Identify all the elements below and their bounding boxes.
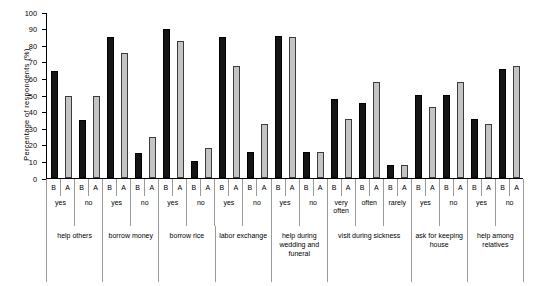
y-tick-label: 90 [29,25,37,34]
plot-area: 0102030405060708090100 [46,13,523,179]
bar-slot [75,13,89,178]
bar-slot [187,13,201,178]
answer-label: no [243,196,271,226]
series-label: B [243,179,257,196]
series-label: A [173,179,187,196]
series-label: B [468,179,482,196]
bar-slot [271,13,285,178]
bar-slot [159,13,173,178]
bar-slot [411,13,425,178]
bar-slot [299,13,313,178]
answer-label: no [300,196,328,226]
bar-B [471,119,478,178]
bar-A [261,124,268,178]
answer-label: no [75,196,103,226]
bar-slot [495,13,509,178]
series-label: B [215,179,229,196]
bar-slot [383,13,397,178]
bar-A [373,82,380,178]
bar-slot [355,13,369,178]
bar-A [65,96,72,179]
bar-A [205,148,212,178]
y-tick-label: 50 [29,91,37,100]
bar-slot [173,13,187,178]
answer-label: no [496,196,524,226]
bar-A [317,152,324,178]
answer-label: no [131,196,159,226]
group-label: help during wedding and funeral [272,226,328,282]
group-label: labor exchange [216,226,272,282]
group-label: ask for keeping house [412,226,468,282]
bar-slot [145,13,159,178]
bar-slot [481,13,495,178]
group-label: borrow money [103,226,159,282]
series-label: B [440,179,454,196]
bar-slot [453,13,467,178]
bar-B [219,37,226,178]
bar-A [457,82,464,178]
bar-A [121,53,128,178]
y-tick: 10 [42,162,46,163]
y-tick: 50 [42,96,46,97]
bar-slot [397,13,411,178]
answer-label-row: yesnoyesnoyesnoyesnoyesnovery oftenoften… [46,196,524,226]
y-tick: 30 [42,129,46,130]
bar-slot [243,13,257,178]
answer-label: yes [103,196,131,226]
bar-slot [117,13,131,178]
series-label: B [272,179,286,196]
y-tick: 100 [42,13,46,14]
series-label: A [314,179,328,196]
series-label: B [75,179,89,196]
series-label: A [201,179,215,196]
group-label: borrow rice [159,226,215,282]
series-label: B [384,179,398,196]
series-label: A [482,179,496,196]
answer-label: yes [412,196,440,226]
bar-slot [103,13,117,178]
y-tick: 60 [42,79,46,80]
bar-A [233,66,240,178]
bar-B [247,152,254,178]
y-tick: 80 [42,46,46,47]
series-label: B [496,179,510,196]
y-tick-label: 10 [29,157,37,166]
bar-B [51,71,58,178]
y-tick-label: 60 [29,74,37,83]
bar-slot [47,13,61,178]
bar-slot [257,13,271,178]
y-tick: 40 [42,112,46,113]
bar-A [93,96,100,179]
bar-slot [131,13,145,178]
group-label: visit during sickness [328,226,412,282]
series-label: B [103,179,117,196]
series-label: A [370,179,384,196]
answer-label: often [356,196,384,226]
bar-B [135,153,142,178]
category-label-table: BABABABABABABABABABABABABABABABABA yesno… [46,179,524,282]
series-label: B [300,179,314,196]
bar-A [289,37,296,178]
bar-B [387,165,394,178]
group-label: help others [46,226,103,282]
bar-slot [61,13,75,178]
bar-A [345,119,352,178]
series-label: A [342,179,356,196]
y-tick-label: 20 [29,141,37,150]
bar-slot [215,13,229,178]
bar-B [107,37,114,178]
bar-slot [509,13,523,178]
series-label: A [229,179,243,196]
bar-B [415,95,422,178]
series-label: A [454,179,468,196]
bar-B [191,161,198,178]
bar-A [485,124,492,178]
bar-slot [439,13,453,178]
bar-slot [201,13,215,178]
answer-label: yes [468,196,496,226]
series-label: A [89,179,103,196]
bar-A [401,165,408,178]
series-label-row: BABABABABABABABABABABABABABABABABA [46,179,524,196]
answer-label: rarely [384,196,412,226]
series-label: A [510,179,524,196]
